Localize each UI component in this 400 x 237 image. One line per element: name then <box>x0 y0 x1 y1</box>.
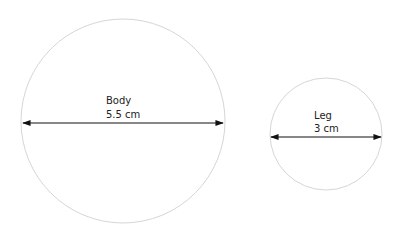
leg-measurement: 3 cm <box>314 123 339 134</box>
body-circle-group: Body 5.5 cm <box>21 19 225 223</box>
body-circle <box>21 19 225 223</box>
body-measurement: 5.5 cm <box>106 109 140 120</box>
leg-circle-group: Leg 3 cm <box>270 78 382 190</box>
leg-label: Leg <box>314 110 332 121</box>
leg-circle <box>270 78 382 190</box>
body-label: Body <box>106 95 131 106</box>
diameter-diagram: Body 5.5 cm Leg 3 cm <box>0 0 400 237</box>
